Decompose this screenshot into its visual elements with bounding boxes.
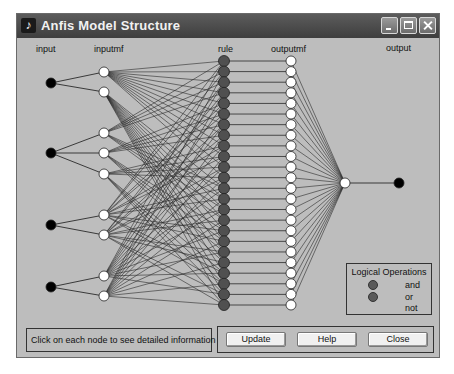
outputmf-node-9[interactable] [286, 141, 296, 151]
input-node-4[interactable] [46, 282, 56, 292]
rule-node-3[interactable] [219, 77, 230, 88]
and-operation-icon[interactable] [368, 280, 378, 290]
rule-node-19[interactable] [219, 246, 230, 257]
rule-node-2[interactable] [219, 66, 230, 77]
rule-node-4[interactable] [219, 87, 230, 98]
inputmf-node-1-2[interactable] [99, 87, 109, 97]
rule-node-1[interactable] [219, 56, 230, 67]
outputmf-node-20[interactable] [286, 258, 296, 268]
inputmf-node-4-2[interactable] [99, 291, 109, 301]
aggregation-node[interactable] [340, 178, 350, 188]
inputmf-node-4-1[interactable] [99, 271, 109, 281]
input-node-1[interactable] [46, 78, 56, 88]
legend-label-or: or [405, 292, 413, 302]
outputmf-node-10[interactable] [286, 151, 296, 161]
outputmf-node-15[interactable] [286, 205, 296, 215]
outputmf-node-8[interactable] [286, 130, 296, 140]
rule-node-14[interactable] [219, 193, 230, 204]
input-node-3[interactable] [46, 220, 56, 230]
outputmf-node-22[interactable] [286, 279, 296, 289]
outputmf-node-12[interactable] [286, 173, 296, 183]
outputmf-node-5[interactable] [286, 98, 296, 108]
rule-node-20[interactable] [219, 257, 230, 268]
outputmf-node-16[interactable] [286, 215, 296, 225]
rule-node-13[interactable] [219, 183, 230, 194]
outputmf-node-14[interactable] [286, 194, 296, 204]
inputmf-node-2-2[interactable] [99, 148, 109, 158]
rule-node-21[interactable] [219, 268, 230, 279]
outputmf-node-1[interactable] [286, 56, 296, 66]
logical-operations-legend: Logical Operations and or not [346, 263, 432, 315]
rule-node-5[interactable] [219, 98, 230, 109]
rule-node-22[interactable] [219, 278, 230, 289]
outputmf-node-19[interactable] [286, 247, 296, 257]
or-operation-icon[interactable] [368, 292, 378, 302]
rule-node-18[interactable] [219, 236, 230, 247]
rule-node-16[interactable] [219, 215, 230, 226]
outputmf-node-7[interactable] [286, 120, 296, 130]
close-button[interactable]: Close [368, 332, 428, 347]
status-panel: Click on each node to see detailed infor… [26, 328, 212, 352]
inputmf-node-3-1[interactable] [99, 210, 109, 220]
rule-node-11[interactable] [219, 162, 230, 173]
legend-title: Logical Operations [347, 267, 431, 277]
outputmf-node-13[interactable] [286, 183, 296, 193]
rule-node-23[interactable] [219, 289, 230, 300]
outputmf-node-6[interactable] [286, 109, 296, 119]
rule-node-9[interactable] [219, 140, 230, 151]
rule-node-10[interactable] [219, 151, 230, 162]
rule-node-12[interactable] [219, 172, 230, 183]
outputmf-node-23[interactable] [286, 289, 296, 299]
legend-label-and: and [405, 280, 420, 290]
inputmf-node-2-1[interactable] [99, 128, 109, 138]
rule-node-6[interactable] [219, 109, 230, 120]
update-button[interactable]: Update [226, 332, 286, 347]
outputmf-node-24[interactable] [286, 300, 296, 310]
outputmf-node-21[interactable] [286, 268, 296, 278]
outputmf-node-17[interactable] [286, 226, 296, 236]
anfis-network-graph[interactable] [0, 0, 454, 374]
outputmf-node-18[interactable] [286, 236, 296, 246]
status-message: Click on each node to see detailed infor… [31, 335, 216, 345]
outputmf-node-11[interactable] [286, 162, 296, 172]
rule-node-24[interactable] [219, 300, 230, 311]
input-node-2[interactable] [46, 148, 56, 158]
rule-node-15[interactable] [219, 204, 230, 215]
legend-label-not: not [405, 303, 418, 313]
button-panel: Update Help Close [217, 326, 434, 353]
rule-node-17[interactable] [219, 225, 230, 236]
inputmf-node-1-1[interactable] [99, 67, 109, 77]
output-node[interactable] [394, 178, 404, 188]
inputmf-node-3-2[interactable] [99, 230, 109, 240]
rule-node-8[interactable] [219, 130, 230, 141]
inputmf-node-2-3[interactable] [99, 169, 109, 179]
outputmf-node-3[interactable] [286, 77, 296, 87]
outputmf-node-4[interactable] [286, 88, 296, 98]
outputmf-node-2[interactable] [286, 67, 296, 77]
help-button[interactable]: Help [297, 332, 357, 347]
rule-node-7[interactable] [219, 119, 230, 130]
